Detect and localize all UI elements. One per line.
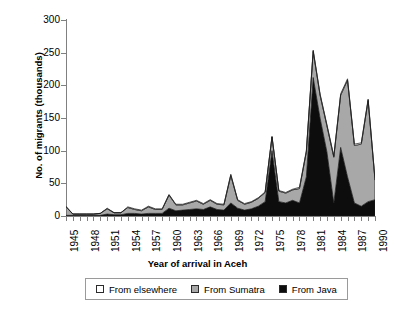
x-tick-mark	[320, 217, 321, 221]
x-tick-mark	[258, 217, 259, 221]
legend-swatch-icon	[191, 285, 199, 293]
x-tick-mark	[196, 217, 197, 221]
legend-entry: From elsewhere	[96, 284, 177, 295]
x-tick-mark	[313, 217, 314, 221]
y-tick-mark	[61, 118, 66, 119]
x-tick-label: 1960	[173, 230, 183, 252]
legend-swatch-icon	[96, 285, 104, 293]
legend-label: From Sumatra	[204, 284, 265, 295]
x-tick-mark	[148, 217, 149, 221]
x-tick-mark	[203, 217, 204, 221]
x-tick-label: 1984	[338, 230, 348, 252]
x-tick-mark	[169, 217, 170, 221]
x-tick-mark	[354, 217, 355, 221]
x-tick-mark	[245, 217, 246, 221]
x-tick-mark	[176, 217, 177, 221]
x-tick-mark	[210, 217, 211, 221]
x-tick-mark	[327, 217, 328, 221]
x-tick-mark	[251, 217, 252, 221]
x-tick-label: 1978	[297, 230, 307, 252]
x-tick-label: 1954	[132, 230, 142, 252]
x-tick-label: 1948	[91, 230, 101, 252]
x-tick-mark	[87, 217, 88, 221]
x-tick-label: 1990	[379, 230, 389, 252]
migration-area-chart: No. of migrants (thousands) 050100150200…	[0, 0, 395, 312]
y-tick-mark	[61, 183, 66, 184]
x-tick-mark	[190, 217, 191, 221]
x-tick-mark	[162, 217, 163, 221]
x-tick-label: 1966	[214, 230, 224, 252]
x-tick-mark	[348, 217, 349, 221]
x-tick-label: 1951	[111, 230, 121, 252]
x-tick-mark	[217, 217, 218, 221]
x-tick-mark	[272, 217, 273, 221]
x-tick-mark	[66, 217, 67, 221]
x-tick-label: 1972	[255, 230, 265, 252]
x-tick-mark	[114, 217, 115, 221]
x-tick-label: 1975	[276, 230, 286, 252]
x-tick-mark	[286, 217, 287, 221]
y-tick-mark	[61, 85, 66, 86]
x-tick-mark	[142, 217, 143, 221]
x-tick-mark	[155, 217, 156, 221]
x-tick-mark	[80, 217, 81, 221]
y-tick-mark	[61, 53, 66, 54]
x-tick-mark	[279, 217, 280, 221]
legend-entry: From Java	[279, 284, 337, 295]
x-tick-label: 1945	[70, 230, 80, 252]
x-axis-title: Year of arrival in Aceh	[0, 258, 395, 269]
x-tick-mark	[334, 217, 335, 221]
x-tick-mark	[73, 217, 74, 221]
x-tick-mark	[238, 217, 239, 221]
x-tick-mark	[224, 217, 225, 221]
x-tick-mark	[306, 217, 307, 221]
x-tick-mark	[375, 217, 376, 221]
x-tick-mark	[128, 217, 129, 221]
x-tick-mark	[135, 217, 136, 221]
x-tick-label: 1981	[317, 230, 327, 252]
x-tick-mark	[107, 217, 108, 221]
x-tick-mark	[93, 217, 94, 221]
x-tick-mark	[100, 217, 101, 221]
x-tick-mark	[341, 217, 342, 221]
x-tick-mark	[299, 217, 300, 221]
legend-label: From elsewhere	[109, 284, 177, 295]
x-tick-mark	[361, 217, 362, 221]
x-tick-label: 1957	[152, 230, 162, 252]
x-tick-mark	[368, 217, 369, 221]
x-tick-mark	[183, 217, 184, 221]
x-tick-label: 1963	[194, 230, 204, 252]
x-tick-mark	[231, 217, 232, 221]
x-tick-mark	[293, 217, 294, 221]
y-tick-mark	[61, 151, 66, 152]
x-tick-label: 1969	[235, 230, 245, 252]
x-tick-label: 1987	[358, 230, 368, 252]
legend-entry: From Sumatra	[191, 284, 265, 295]
y-tick-mark	[61, 20, 66, 21]
chart-legend: From elsewhereFrom SumatraFrom Java	[85, 278, 348, 300]
legend-swatch-icon	[279, 285, 287, 293]
x-tick-mark	[265, 217, 266, 221]
x-tick-mark	[121, 217, 122, 221]
legend-label: From Java	[292, 284, 337, 295]
